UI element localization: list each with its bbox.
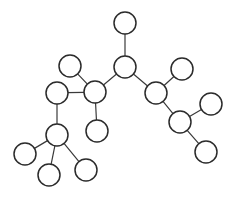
graph-node <box>38 164 60 186</box>
graph-diagram <box>0 0 233 197</box>
graph-node <box>86 120 108 142</box>
graph-edge <box>78 74 88 84</box>
graph-edge <box>190 110 202 117</box>
graph-node <box>200 93 222 115</box>
graph-node <box>195 141 217 163</box>
graph-edge <box>51 146 55 164</box>
graph-node <box>171 58 193 80</box>
graph-node <box>75 159 97 181</box>
graph-node <box>145 82 167 104</box>
node-layer <box>14 12 222 186</box>
graph-node <box>114 56 136 78</box>
graph-node <box>169 111 191 133</box>
graph-node <box>46 82 68 104</box>
graph-edge <box>163 101 173 113</box>
graph-edge <box>64 143 79 161</box>
graph-node <box>84 81 106 103</box>
graph-edge <box>187 130 199 143</box>
graph-edge <box>34 141 47 149</box>
graph-node <box>114 12 136 34</box>
graph-node <box>59 55 81 77</box>
graph-edge <box>133 74 147 86</box>
graph-node <box>46 124 68 146</box>
graph-edge <box>164 76 174 85</box>
graph-canvas <box>0 0 233 197</box>
graph-node <box>14 143 36 165</box>
graph-edge <box>103 74 116 85</box>
graph-edge <box>96 103 97 120</box>
